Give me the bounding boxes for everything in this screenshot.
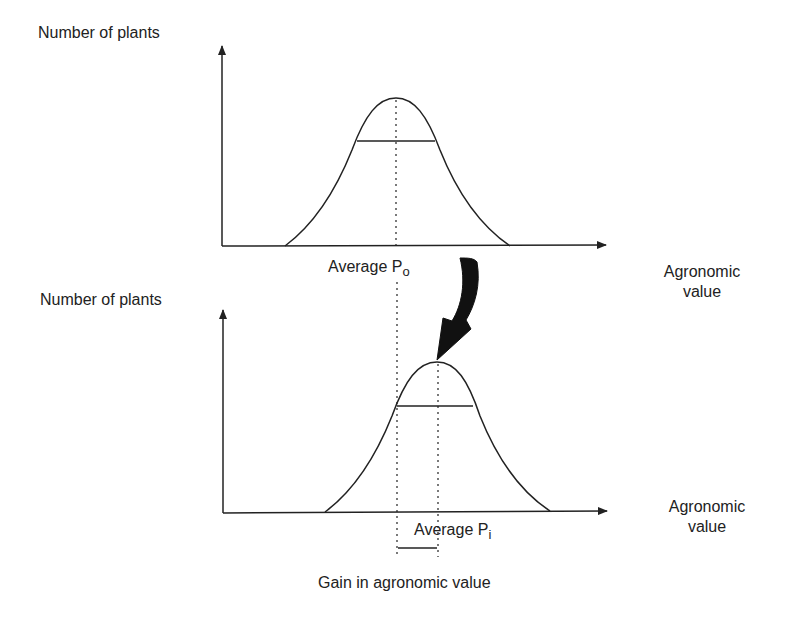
top-average-label: Average Po	[328, 258, 410, 279]
selection-arrow-icon	[437, 258, 478, 360]
gain-label: Gain in agronomic value	[318, 574, 491, 592]
bottom-x-axis-label-line2: value	[657, 517, 757, 537]
top-y-axis-label: Number of plants	[38, 24, 160, 42]
bottom-average-label: Average Pi	[414, 521, 491, 542]
bottom-panel	[223, 310, 607, 557]
top-x-axis	[222, 245, 606, 246]
top-panel	[222, 46, 606, 246]
top-average-subscript: o	[402, 264, 409, 279]
bottom-average-subscript: i	[488, 527, 491, 542]
top-x-axis-label-line1: Agronomic	[652, 262, 752, 282]
top-x-axis-label: Agronomic value	[652, 262, 752, 302]
bottom-x-axis-label-line1: Agronomic	[657, 497, 757, 517]
top-x-axis-label-line2: value	[652, 282, 752, 302]
bottom-y-axis-label: Number of plants	[40, 291, 162, 309]
top-average-text: Average P	[328, 258, 402, 275]
bottom-average-text: Average P	[414, 521, 488, 538]
top-distribution-curve	[285, 98, 510, 246]
bottom-x-axis-label: Agronomic value	[657, 497, 757, 537]
